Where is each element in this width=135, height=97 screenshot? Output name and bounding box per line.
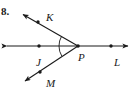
ray-PM (25, 46, 78, 81)
angle-mark-KPJ (59, 36, 62, 46)
point-label-K: K (46, 12, 53, 23)
point-label-P: P (78, 52, 85, 63)
point-dot-L (109, 44, 112, 47)
point-dot-K (36, 20, 39, 23)
figure-canvas (0, 0, 135, 97)
angle-mark-JPM (59, 46, 62, 56)
point-label-L: L (114, 57, 120, 68)
geometry-figure: 8. K J P (0, 0, 135, 97)
point-label-J: J (36, 57, 41, 68)
point-label-M: M (46, 78, 55, 89)
ray-PM-segment (25, 46, 78, 81)
point-dot-J (37, 44, 40, 47)
point-dot-M (38, 70, 41, 73)
point-dot-P (76, 44, 80, 48)
